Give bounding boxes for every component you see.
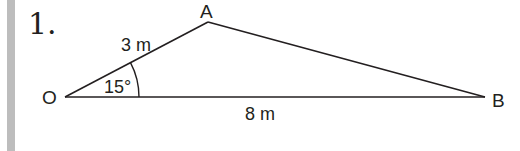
angle-label: 15° xyxy=(104,77,131,97)
vertex-label-o: O xyxy=(42,87,57,108)
side-ab xyxy=(208,22,485,97)
angle-arc xyxy=(131,63,140,97)
vertex-label-b: B xyxy=(492,90,505,111)
triangle-diagram: 1. O A B 3 m 8 m 15° xyxy=(0,0,520,151)
problem-number: 1. xyxy=(28,6,57,41)
side-label-oa: 3 m xyxy=(121,35,151,55)
side-oa xyxy=(65,22,208,97)
side-label-ob: 8 m xyxy=(245,104,275,124)
vertex-label-a: A xyxy=(200,1,213,22)
